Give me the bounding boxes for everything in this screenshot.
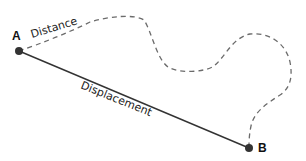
distance-displacement-diagram: A B Distance Displacement — [0, 0, 306, 161]
point-a-dot — [15, 47, 23, 55]
point-a-label: A — [12, 29, 21, 43]
displacement-label: Displacement — [79, 79, 155, 120]
point-b-dot — [245, 144, 253, 152]
distance-label: Distance — [29, 14, 79, 41]
distance-path — [19, 16, 291, 148]
point-b-label: B — [258, 141, 267, 155]
